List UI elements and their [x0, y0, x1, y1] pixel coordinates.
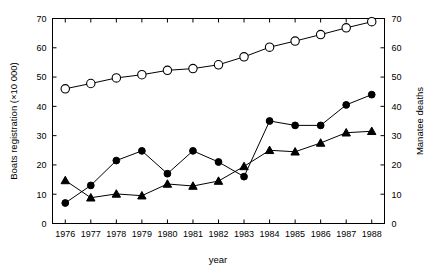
- data-point-filled-circle: [190, 147, 197, 154]
- x-tick-label: 1986: [311, 229, 331, 239]
- y-tick-label-left: 50: [36, 72, 46, 82]
- x-tick-label: 1983: [234, 229, 254, 239]
- data-point-filled-circle: [113, 157, 120, 164]
- data-point-open-circle: [189, 64, 197, 72]
- data-point-open-circle: [87, 79, 95, 87]
- y-tick-label-right: 10: [392, 190, 402, 200]
- x-tick-label: 1987: [336, 229, 356, 239]
- x-tick-label: 1979: [132, 229, 152, 239]
- chart-figure: 1976197719781979198019811982198319841985…: [0, 0, 438, 273]
- data-point-filled-circle: [87, 182, 94, 189]
- data-point-filled-circle: [266, 118, 273, 125]
- y-tick-label-right: 0: [392, 219, 397, 229]
- data-point-filled-circle: [317, 122, 324, 129]
- data-point-open-circle: [265, 43, 273, 51]
- manatee-boats-line-chart: 1976197719781979198019811982198319841985…: [0, 0, 438, 273]
- y-tick-label-right: 20: [392, 160, 402, 170]
- y-tick-label-left: 60: [36, 43, 46, 53]
- data-point-filled-circle: [368, 91, 375, 98]
- x-tick-label: 1988: [362, 229, 382, 239]
- data-point-open-circle: [240, 53, 248, 61]
- data-point-filled-circle: [343, 101, 350, 108]
- y-tick-label-right: 50: [392, 72, 402, 82]
- x-tick-label: 1978: [106, 229, 126, 239]
- data-point-filled-circle: [241, 173, 248, 180]
- x-tick-label: 1984: [260, 229, 280, 239]
- y-tick-label-right: 70: [392, 14, 402, 24]
- y-tick-label-left: 20: [36, 160, 46, 170]
- y-tick-label-left: 70: [36, 14, 46, 24]
- y-tick-label-left: 0: [41, 219, 46, 229]
- data-point-open-circle: [163, 66, 171, 74]
- y-tick-label-right: 40: [392, 102, 402, 112]
- x-tick-label: 1977: [81, 229, 101, 239]
- y-axis-right-title: Manatee deaths: [414, 87, 425, 155]
- data-point-open-circle: [342, 24, 350, 32]
- data-point-filled-circle: [164, 170, 171, 177]
- data-point-filled-circle: [215, 159, 222, 166]
- y-tick-label-right: 60: [392, 43, 402, 53]
- data-point-filled-circle: [62, 200, 69, 207]
- data-point-filled-circle: [138, 147, 145, 154]
- data-point-open-circle: [112, 74, 120, 82]
- x-tick-label: 1981: [183, 229, 203, 239]
- data-point-open-circle: [291, 37, 299, 45]
- y-tick-label-left: 30: [36, 131, 46, 141]
- x-tick-label: 1980: [157, 229, 177, 239]
- y-tick-label-right: 30: [392, 131, 402, 141]
- y-tick-label-left: 10: [36, 190, 46, 200]
- data-point-open-circle: [138, 71, 146, 79]
- y-tick-label-left: 40: [36, 102, 46, 112]
- x-tick-label: 1982: [208, 229, 228, 239]
- data-point-filled-circle: [292, 122, 299, 129]
- x-axis-title: year: [209, 254, 227, 265]
- data-point-open-circle: [316, 30, 324, 38]
- data-point-open-circle: [368, 18, 376, 26]
- y-axis-left-title: Boats registration (×10 000): [8, 62, 19, 180]
- data-point-open-circle: [214, 61, 222, 69]
- x-tick-label: 1985: [285, 229, 305, 239]
- data-point-open-circle: [61, 85, 69, 93]
- x-tick-label: 1976: [55, 229, 75, 239]
